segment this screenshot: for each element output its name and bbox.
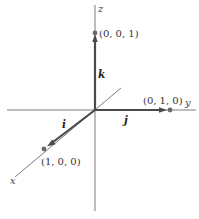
point-1-0-0 [42, 147, 47, 152]
x-axis-label: x [10, 175, 16, 186]
point-label-0-0-1: (0, 0, 1) [99, 28, 139, 39]
y-axis-label: y [184, 97, 191, 108]
z-axis-label: z [97, 3, 104, 14]
point-label-0-1-0: (0, 1, 0) [143, 95, 183, 106]
point-0-0-1 [93, 31, 98, 36]
vector-j-arrowhead [159, 107, 167, 112]
vector-i [53, 110, 95, 142]
points [42, 31, 173, 152]
vector-j-label: j [122, 114, 128, 126]
point-label-1-0-0: (1, 0, 0) [41, 156, 81, 167]
point-0-1-0 [168, 108, 173, 113]
coordinate-diagram: (0, 0, 1) (0, 1, 0) (1, 0, 0) z y x k j … [0, 0, 199, 219]
vector-i-label: i [62, 118, 66, 130]
vector-k-label: k [98, 68, 105, 80]
